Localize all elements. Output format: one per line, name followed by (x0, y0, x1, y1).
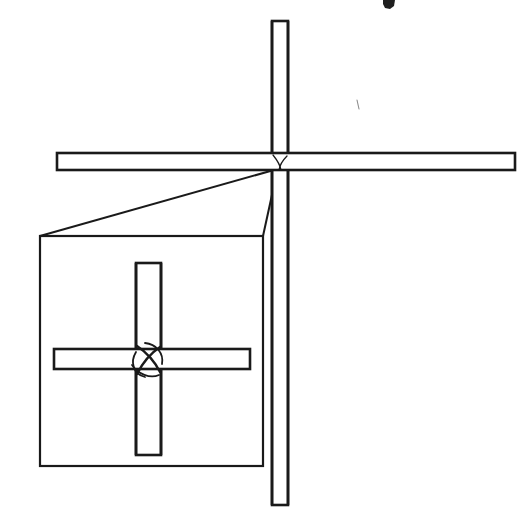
main-vertical-bar (272, 21, 288, 505)
technical-figure-canvas: Cross-shaped frame of two crossed bars w… (0, 0, 525, 521)
main-horizontal-bar (57, 153, 515, 170)
figure-drawing (0, 0, 525, 521)
